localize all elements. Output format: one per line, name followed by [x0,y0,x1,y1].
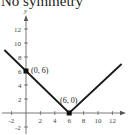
point-marker [24,69,29,74]
point-label-a: (0, 6) [31,66,49,75]
y-tick-label: 12 [14,26,22,34]
y-tick-label: 10 [14,40,22,48]
y-tick-label: 8 [18,54,22,62]
y-axis-arrow-icon [24,15,28,21]
x-tick-label: 10 [95,117,103,125]
y-tick-label: 4 [18,82,22,90]
x-tick-label: 12 [109,117,117,125]
x-tick-label: -2 [9,117,15,125]
x-tick-label: 2 [39,117,43,125]
x-tick-label: 6 [67,117,71,125]
y-tick-label: 2 [18,96,22,104]
x-tick-label: 4 [53,117,57,125]
x-axis-arrow-icon [120,111,126,115]
x-tick-label: 8 [82,117,86,125]
y-tick-label: 6 [18,68,22,76]
y-tick-label: -2 [15,124,21,132]
point-marker [67,111,72,116]
x-axis [2,111,126,115]
point-label-b: (6, 0) [60,96,78,105]
y-axis-label: y [23,7,28,15]
chart-plot: y -2 2 4 6 8 10 12 12 10 8 6 4 2 -2 [0,0,129,135]
